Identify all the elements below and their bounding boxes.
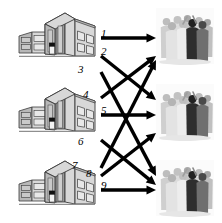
edge-label-4: 4 — [83, 89, 89, 100]
edge-label-6: 6 — [78, 136, 84, 147]
edge-label-9: 9 — [101, 180, 107, 191]
edge-label-8: 8 — [86, 168, 92, 179]
edge-label-2: 2 — [101, 46, 107, 57]
edge-labels-layer: 123456789 — [0, 0, 222, 223]
edge-label-1: 1 — [101, 28, 107, 39]
edge-label-3: 3 — [78, 64, 84, 75]
edge-label-7: 7 — [72, 160, 78, 171]
edge-label-5: 5 — [101, 105, 107, 116]
diagram-canvas: 123456789 — [0, 0, 222, 223]
